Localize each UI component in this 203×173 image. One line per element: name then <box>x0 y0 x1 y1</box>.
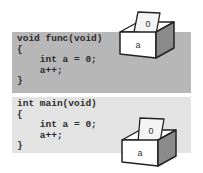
code-block-main: int main(void){ int a = 0; a++;} <box>17 99 97 152</box>
code-line: } <box>17 141 97 152</box>
code-line: a++; <box>17 66 103 77</box>
box-label: a <box>137 148 142 158</box>
value-card-icon: 0 <box>134 12 160 34</box>
code-line: } <box>17 76 103 87</box>
code-line: void func(void) <box>17 34 103 45</box>
card-value: 0 <box>148 126 153 136</box>
variable-box-icon: 0 a <box>118 114 180 168</box>
code-block-func: void func(void){ int a = 0; a++;} <box>17 34 103 87</box>
box-label: a <box>135 40 140 50</box>
code-line: a++; <box>17 131 97 142</box>
card-value: 0 <box>145 19 150 29</box>
variable-box-icon: 0 a <box>116 8 178 62</box>
code-line: int main(void) <box>17 99 97 110</box>
